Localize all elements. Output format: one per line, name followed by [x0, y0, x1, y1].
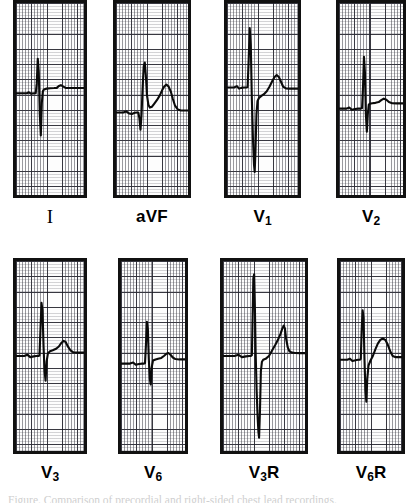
ecg-waveform-path-V6: [121, 322, 185, 385]
ecg-lead-label-aVF: aVF: [113, 207, 191, 227]
ecg-panel-V2[interactable]: [336, 0, 406, 198]
ecg-waveform-path-V3R: [223, 274, 305, 437]
ecg-lead-label-V6R: V6R: [337, 463, 405, 483]
ecg-lead-label-V6-base: V: [144, 463, 156, 482]
ecg-waveform-path-V2: [339, 57, 403, 132]
ecg-lead-label-V2: V2: [336, 207, 406, 227]
ecg-panel-V1[interactable]: [224, 0, 301, 198]
ecg-waveform-path-V6R: [340, 310, 402, 401]
ecg-lead-label-V6R-base: V: [356, 463, 368, 482]
ecg-waveform-path-V1: [227, 28, 298, 172]
ecg-lead-label-V3-subscript: 3: [52, 470, 59, 484]
ecg-row-bottom: V3 V6: [0, 258, 415, 498]
ecg-panel-V6[interactable]: [118, 258, 188, 454]
ecg-lead-label-V3R-base: V: [249, 463, 261, 482]
ecg-trace-V1: [227, 3, 298, 195]
ecg-trace-V3R: [223, 261, 305, 451]
ecg-trace-V6: [121, 261, 185, 451]
ecg-lead-label-V2-subscript: 2: [373, 214, 380, 228]
ecg-row-top: I aVF: [0, 0, 415, 245]
ecg-lead-label-V6: V6: [118, 463, 188, 483]
ecg-panel-aVF[interactable]: [113, 0, 191, 198]
ecg-lead-label-V3R-suffix: R: [267, 463, 279, 482]
ecg-trace-V6R: [340, 261, 402, 451]
ecg-lead-label-V3-base: V: [41, 463, 53, 482]
ecg-trace-V3: [16, 261, 84, 451]
ecg-figure: I aVF: [0, 0, 415, 503]
ecg-panel-V3R[interactable]: [220, 258, 308, 454]
ecg-lead-label-V1-base: V: [253, 207, 265, 226]
ecg-lead-label-V3R-subscript: 3: [260, 470, 267, 484]
ecg-waveform-path-aVF: [116, 63, 188, 130]
ecg-lead-label-V3R: V3R: [220, 463, 308, 483]
ecg-trace-aVF: [116, 3, 188, 195]
ecg-lead-label-V1: V1: [224, 207, 301, 227]
figure-caption: Figure. Comparison of precordial and rig…: [8, 494, 408, 503]
ecg-lead-label-V6R-subscript: 6: [367, 470, 374, 484]
ecg-lead-label-V3: V3: [13, 463, 87, 483]
ecg-panel-I[interactable]: [13, 0, 87, 198]
ecg-trace-V2: [339, 3, 403, 195]
ecg-lead-label-V2-base: V: [362, 207, 374, 226]
ecg-lead-label-V1-subscript: 1: [265, 214, 272, 228]
ecg-panel-V3[interactable]: [13, 258, 87, 454]
ecg-lead-label-I: I: [13, 206, 87, 228]
ecg-trace-I: [16, 3, 84, 195]
ecg-panel-V6R[interactable]: [337, 258, 405, 454]
ecg-lead-label-V6-subscript: 6: [155, 470, 162, 484]
ecg-waveform-path-I: [16, 59, 84, 136]
ecg-lead-label-V6R-suffix: R: [374, 463, 386, 482]
ecg-waveform-path-V3: [16, 303, 84, 381]
